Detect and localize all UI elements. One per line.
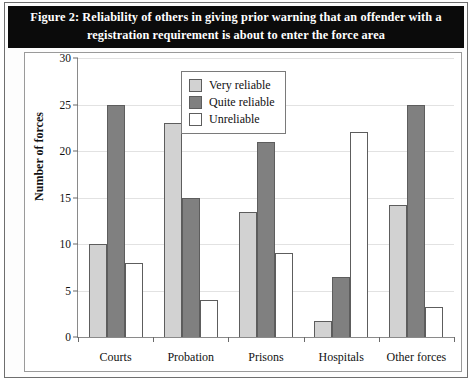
bar-group-bars <box>304 58 379 337</box>
figure-title-band: Figure 2: Reliability of others in givin… <box>8 6 464 48</box>
legend-item-label: Very reliable <box>209 78 271 93</box>
bar[interactable] <box>332 277 350 337</box>
chart-frame: Number of forces 051015202530CourtsProba… <box>24 52 462 372</box>
y-tick-label: 10 <box>60 238 72 250</box>
figure-root: Figure 2: Reliability of others in givin… <box>0 0 474 382</box>
x-tick-mark <box>78 337 79 342</box>
y-tick-label: 15 <box>60 192 72 204</box>
bar-group: Other forces <box>379 58 454 337</box>
bar[interactable] <box>314 321 332 337</box>
x-tick-label: Other forces <box>356 350 474 365</box>
bar-group: Hospitals <box>304 58 379 337</box>
y-tick-label: 25 <box>60 99 72 111</box>
bar[interactable] <box>389 205 407 337</box>
y-tick-label: 20 <box>60 145 72 157</box>
x-tick-mark <box>228 337 229 342</box>
x-tick-mark <box>153 337 154 342</box>
legend-item[interactable]: Unreliable <box>189 111 275 128</box>
figure-title-line-1: Figure 2: Reliability of others in givin… <box>30 10 441 24</box>
chart-legend: Very reliableQuite reliableUnreliable <box>181 71 286 134</box>
bar[interactable] <box>89 244 107 337</box>
legend-swatch-icon <box>189 113 202 126</box>
legend-item-label: Quite reliable <box>209 95 275 110</box>
bar[interactable] <box>407 105 425 338</box>
bar[interactable] <box>257 142 275 337</box>
bar-group: Courts <box>78 58 153 337</box>
y-axis-title: Number of forces <box>32 87 47 227</box>
legend-swatch-icon <box>189 79 202 92</box>
bar[interactable] <box>239 212 257 337</box>
x-tick-mark <box>379 337 380 342</box>
bar-group-bars <box>379 58 454 337</box>
page-title: Figure 2: Reliability of others in givin… <box>30 9 441 45</box>
x-tick-mark <box>304 337 305 342</box>
bar[interactable] <box>350 132 368 337</box>
legend-item[interactable]: Very reliable <box>189 77 275 94</box>
bar[interactable] <box>107 105 125 338</box>
bar[interactable] <box>125 263 143 337</box>
bar[interactable] <box>182 198 200 338</box>
legend-swatch-icon <box>189 96 202 109</box>
bar[interactable] <box>425 307 443 337</box>
y-gridline <box>78 337 454 338</box>
legend-item[interactable]: Quite reliable <box>189 94 275 111</box>
bar-group-bars <box>78 58 153 337</box>
legend-item-label: Unreliable <box>209 112 260 127</box>
bar[interactable] <box>275 253 293 337</box>
bar[interactable] <box>164 123 182 337</box>
x-tick-mark <box>454 337 455 342</box>
y-tick-label: 0 <box>65 331 71 343</box>
figure-title-line-2: registration requirement is about to ent… <box>30 27 441 45</box>
y-tick-label: 5 <box>65 285 71 297</box>
bar[interactable] <box>200 300 218 337</box>
y-tick-label: 30 <box>60 52 72 64</box>
